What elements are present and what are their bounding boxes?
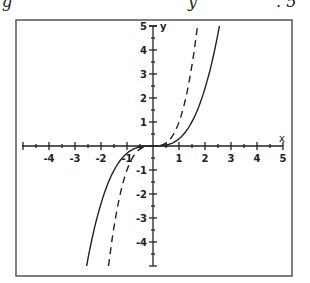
x-tick-label: 5 [280,153,287,164]
y-tick-label: 1 [140,117,147,128]
x-axis-label: x [279,133,285,144]
cubic-graph: -4-3-2-112345-4-3-2-112345 x y [0,0,310,283]
y-tick-label: 2 [140,93,147,104]
x-tick-label: 1 [176,153,183,164]
y-tick-label: -1 [136,165,147,176]
tick-labels: -4-3-2-112345-4-3-2-112345 [43,21,286,248]
y-tick-label: -4 [136,237,147,248]
x-tick-label: -4 [43,153,54,164]
y-tick-label: -2 [136,189,147,200]
y-tick-label: 4 [140,45,147,56]
x-tick-label: -3 [69,153,80,164]
x-tick-label: -2 [95,153,106,164]
x-tick-label: 3 [228,153,235,164]
y-tick-label: -3 [136,213,147,224]
x-tick-label: 2 [202,153,209,164]
y-axis-label: y [160,21,167,32]
y-tick-label: 3 [140,69,147,80]
y-tick-label: 5 [140,21,147,32]
plot-frame [16,20,292,276]
x-tick-label: -1 [121,153,132,164]
x-tick-label: 4 [254,153,261,164]
